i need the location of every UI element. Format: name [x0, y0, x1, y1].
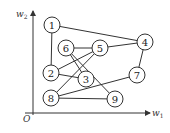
edge-1-4 [52, 25, 145, 42]
node-6: 6 [58, 40, 74, 56]
node-label: 3 [83, 74, 89, 85]
edges [51, 25, 145, 99]
node-label: 9 [112, 94, 118, 105]
node-label: 6 [63, 43, 69, 54]
node-label: 7 [134, 70, 140, 81]
node-label: 4 [142, 37, 148, 48]
node-5: 5 [92, 40, 108, 56]
origin-label: O [23, 114, 31, 124]
node-4: 4 [137, 34, 153, 50]
node-7: 7 [129, 67, 145, 83]
node-label: 8 [48, 93, 54, 104]
graph-diagram: w2 w1 O 123456789 [0, 0, 170, 133]
x-axis-label: w1 [152, 108, 164, 119]
nodes: 123456789 [43, 17, 153, 107]
node-label: 2 [48, 68, 54, 79]
node-1: 1 [44, 17, 60, 33]
node-label: 1 [49, 20, 55, 31]
node-9: 9 [107, 91, 123, 107]
node-2: 2 [43, 65, 59, 81]
axes: w2 w1 O [16, 9, 164, 124]
node-label: 5 [97, 43, 103, 54]
y-axis-label: w2 [16, 9, 28, 20]
node-3: 3 [78, 71, 94, 87]
edge-8-9 [51, 98, 115, 99]
node-8: 8 [43, 90, 59, 106]
